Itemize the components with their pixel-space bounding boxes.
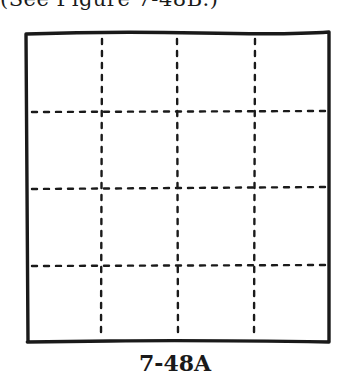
figure-label: 7-48A	[0, 350, 350, 376]
dashed-grid-lines	[32, 39, 325, 338]
horizontal-dashed-line	[32, 187, 325, 189]
grid-figure	[0, 0, 350, 380]
horizontal-dashed-line	[32, 265, 325, 266]
vertical-dashed-line	[254, 39, 255, 338]
horizontal-dashed-line	[32, 111, 325, 112]
vertical-dashed-line	[101, 39, 102, 338]
